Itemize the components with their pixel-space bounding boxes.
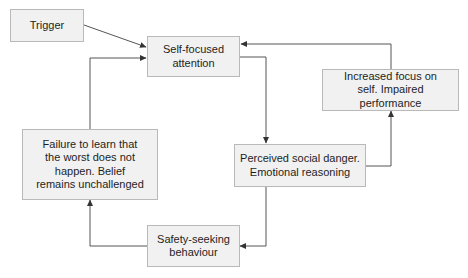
node-label-line: happen. Belief [55, 165, 125, 179]
diagram-canvas: Trigger Self-focused attention Increased… [0, 0, 468, 278]
node-label-line: behaviour [169, 246, 217, 260]
node-label-line: the worst does not [45, 151, 135, 165]
node-label: Trigger [30, 19, 64, 33]
edge-failure-to-attention [90, 58, 146, 129]
node-increased-focus: Increased focus on self. Impaired perfor… [322, 69, 459, 111]
node-trigger: Trigger [10, 9, 84, 42]
node-label-line: self. Impaired performance [327, 83, 454, 110]
edge-perceived-to-increased [366, 111, 391, 166]
edge-safety-to-failure [90, 200, 147, 246]
edge-attention-to-perceived [240, 57, 266, 143]
edge-trigger-to-attention [84, 25, 146, 47]
node-label-line: Safety-seeking [157, 233, 230, 247]
node-label-line: Failure to learn that [43, 138, 138, 152]
node-label-line: Increased focus on [344, 70, 437, 84]
node-label-line: attention [172, 57, 214, 71]
node-label-line: Self-focused [163, 43, 224, 57]
node-label-line: remains unchallenged [36, 178, 144, 192]
node-failure-to-learn: Failure to learn that the worst does not… [22, 129, 158, 200]
node-label-line: Perceived social danger. [240, 152, 360, 166]
node-safety-seeking: Safety-seeking behaviour [147, 225, 240, 267]
node-self-focused-attention: Self-focused attention [147, 36, 240, 77]
node-label-line: Emotional reasoning [250, 166, 350, 180]
edge-perceived-to-safety [240, 187, 266, 246]
node-perceived-social-danger: Perceived social danger. Emotional reaso… [234, 144, 366, 187]
